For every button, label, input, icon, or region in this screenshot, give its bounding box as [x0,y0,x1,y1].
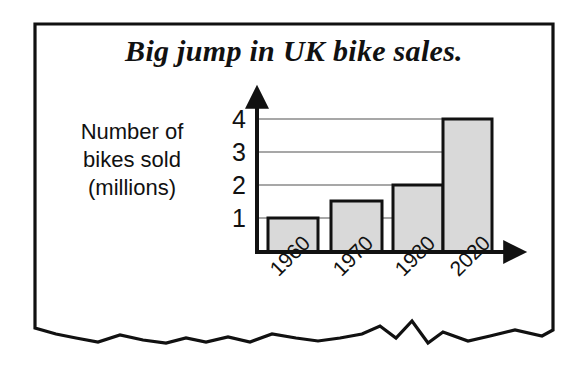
y-tick-label-4: 4 [214,105,246,134]
y-tick-label-3: 3 [214,138,246,167]
bar-chart [0,0,573,373]
bar-2020 [443,119,492,252]
y-tick-label-2: 2 [214,171,246,200]
y-tick-label-1: 1 [214,204,246,233]
